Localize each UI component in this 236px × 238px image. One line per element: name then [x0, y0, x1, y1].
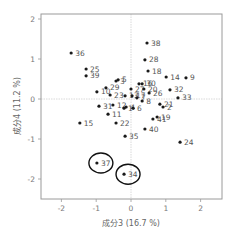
data-point: 40 [143, 125, 158, 134]
highlight-rings [89, 153, 140, 184]
x-tick-label: -1 [92, 204, 100, 213]
point-marker [123, 135, 126, 138]
point-marker [85, 74, 88, 77]
y-tick-label: 1 [30, 55, 35, 64]
point-label: 15 [84, 119, 94, 128]
point-marker [117, 78, 120, 81]
point-label: 35 [129, 132, 139, 141]
point-label: 34 [128, 170, 138, 179]
point-label: 5 [122, 75, 127, 84]
data-point: 36 [70, 49, 85, 58]
data-point: 41 [151, 115, 166, 124]
point-marker [161, 105, 164, 108]
point-marker [176, 96, 179, 99]
point-label: 2 [167, 103, 172, 112]
point-label: 6 [137, 104, 142, 113]
point-marker [168, 88, 171, 91]
data-point: 10 [95, 87, 110, 96]
point-marker [141, 82, 144, 85]
point-label: 22 [120, 119, 130, 128]
point-marker [111, 103, 114, 106]
y-axis-title: 成分4 (11.2 %) [12, 77, 22, 135]
point-label: 36 [75, 49, 85, 58]
point-marker [122, 173, 125, 176]
data-point: 38 [145, 39, 160, 48]
point-marker [70, 51, 73, 54]
data-points: 3625393828181493529102327131716302026323… [70, 39, 195, 179]
y-axis-ticks: 210-1-2 [28, 15, 41, 184]
point-marker [109, 93, 112, 96]
data-point: 15 [78, 119, 93, 128]
point-marker [106, 113, 109, 116]
x-axis-title: 成分3 (16.7 %) [102, 218, 160, 228]
point-marker [131, 107, 134, 110]
point-marker [114, 121, 117, 124]
point-label: 26 [153, 89, 163, 98]
point-marker [145, 41, 148, 44]
data-point: 35 [123, 132, 138, 141]
x-tick-label: 1 [163, 204, 168, 213]
point-marker [146, 69, 149, 72]
x-tick-label: -2 [58, 204, 66, 213]
point-marker [137, 82, 140, 85]
point-marker [130, 94, 133, 97]
point-marker [143, 127, 146, 130]
data-point: 18 [146, 67, 161, 76]
point-label: 41 [157, 115, 167, 124]
data-point: 24 [178, 138, 193, 147]
data-point: 28 [143, 55, 158, 64]
data-point: 39 [85, 71, 100, 80]
data-point: 33 [176, 93, 191, 102]
point-marker [125, 105, 128, 108]
data-point: 14 [165, 73, 180, 82]
x-tick-label: 2 [198, 204, 203, 213]
point-label: 28 [149, 55, 159, 64]
point-marker [123, 94, 126, 97]
y-tick-label: 2 [30, 15, 35, 24]
data-point: 34 [122, 170, 137, 179]
point-marker [85, 67, 88, 70]
scatter-chart: -2-1012 210-1-2 362539382818149352910232… [0, 0, 236, 238]
point-label: 39 [90, 71, 100, 80]
point-marker [141, 99, 144, 102]
y-tick-label: -1 [28, 135, 36, 144]
point-marker [151, 117, 154, 120]
point-marker [184, 76, 187, 79]
y-tick-label: -2 [28, 175, 36, 184]
point-marker [129, 87, 132, 90]
point-marker [97, 105, 100, 108]
point-marker [158, 103, 161, 106]
point-label: 8 [146, 97, 151, 106]
point-marker [95, 90, 98, 93]
data-point: 31 [97, 102, 112, 111]
point-marker [95, 161, 98, 164]
point-label: 14 [170, 73, 180, 82]
data-point: 37 [95, 159, 110, 168]
x-tick-label: 0 [129, 204, 134, 213]
data-point: 9 [184, 73, 195, 82]
point-marker [135, 96, 138, 99]
data-point: 22 [114, 119, 129, 128]
point-label: 40 [149, 125, 159, 134]
point-label: 23 [114, 91, 124, 100]
data-point: 11 [106, 110, 121, 119]
point-label: 38 [151, 39, 161, 48]
point-marker [142, 87, 145, 90]
y-tick-label: 0 [30, 95, 35, 104]
point-label: 24 [184, 138, 194, 147]
point-marker [78, 121, 81, 124]
point-label: 9 [190, 73, 195, 82]
point-marker [178, 141, 181, 144]
point-marker [147, 91, 150, 94]
x-axis-ticks: -2-1012 [58, 199, 204, 213]
point-label: 18 [152, 67, 162, 76]
point-marker [165, 75, 168, 78]
point-label: 37 [101, 159, 111, 168]
point-label: 11 [112, 110, 122, 119]
point-marker [143, 58, 146, 61]
point-label: 33 [182, 93, 192, 102]
